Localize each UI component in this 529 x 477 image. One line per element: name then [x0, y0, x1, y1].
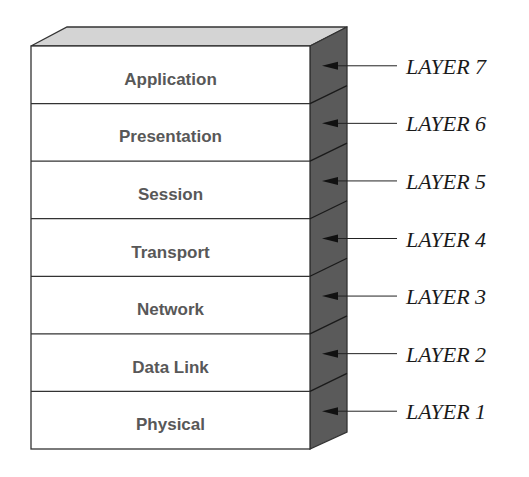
layer-number-label: LAYER 5	[405, 169, 486, 194]
layer-number-label: LAYER 7	[405, 54, 487, 79]
layer-number-label: LAYER 2	[405, 342, 486, 367]
osi-model-diagram: ApplicationLAYER 7PresentationLAYER 6Ses…	[0, 0, 529, 477]
layer-name: Physical	[136, 415, 205, 434]
layer-name: Data Link	[132, 358, 209, 377]
layer-name: Transport	[131, 243, 210, 262]
layer-number-label: LAYER 4	[405, 227, 486, 252]
layer-name: Presentation	[119, 127, 222, 146]
layer-number-label: LAYER 3	[405, 284, 486, 309]
layer-number-label: LAYER 1	[405, 399, 486, 424]
layer-name: Application	[124, 70, 217, 89]
layer-number-label: LAYER 6	[405, 111, 486, 136]
layer-name: Session	[138, 185, 203, 204]
osi-stack-graphic: ApplicationLAYER 7PresentationLAYER 6Ses…	[0, 0, 529, 477]
layer-name: Network	[137, 300, 205, 319]
stack-top-face	[31, 27, 347, 46]
